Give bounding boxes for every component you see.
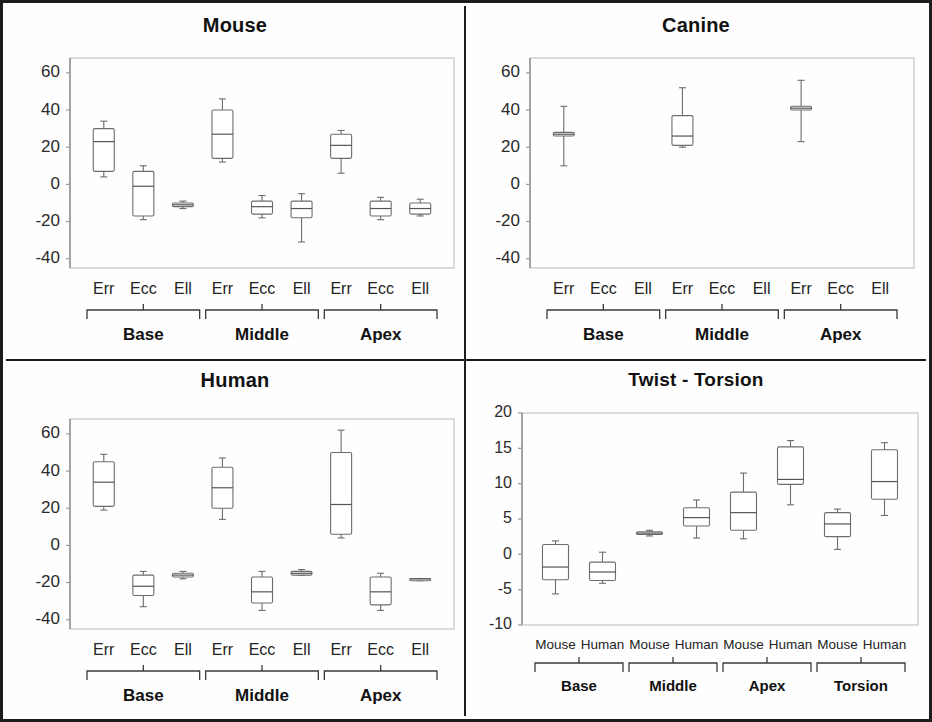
box-plot <box>684 500 710 538</box>
group-label: Apex <box>749 677 786 694</box>
y-tick-label: 20 <box>41 498 60 517</box>
panel-human: Human 6040200-20-40ErrEccEllErrEccEllErr… <box>6 361 466 716</box>
x-category-label: Mouse <box>535 637 576 652</box>
x-category-label: Mouse <box>723 637 764 652</box>
y-tick-label: -20 <box>35 211 60 230</box>
x-category-label: Ell <box>411 280 429 297</box>
y-tick-label: -10 <box>489 615 512 632</box>
x-category-label: Human <box>769 637 813 652</box>
group-label: Base <box>583 325 624 344</box>
group-label: Base <box>561 677 597 694</box>
boxplot-svg-mouse: 6040200-20-40ErrEccEllErrEccEllErrEccEll… <box>6 6 466 361</box>
box-plot <box>410 199 431 216</box>
box-plot <box>93 121 114 177</box>
plot-area-mouse: 6040200-20-40ErrEccEllErrEccEllErrEccEll… <box>6 6 464 359</box>
group-bracket <box>324 304 437 319</box>
box-plot <box>543 541 569 594</box>
y-tick-label: 60 <box>501 62 520 81</box>
group-bracket <box>723 657 811 672</box>
group-bracket <box>629 657 717 672</box>
x-category-label: Ell <box>293 641 311 658</box>
box-plot <box>553 106 574 165</box>
group-bracket <box>547 304 660 319</box>
group-label: Middle <box>649 677 697 694</box>
y-tick-label: 60 <box>41 62 60 81</box>
box-plot <box>672 88 693 147</box>
group-bracket <box>535 657 623 672</box>
box-plot <box>172 571 193 578</box>
box-plot <box>370 197 391 219</box>
box-plot <box>172 201 193 208</box>
x-category-label: Err <box>330 641 352 658</box>
group-label: Base <box>123 325 164 344</box>
y-tick-label: 0 <box>51 535 60 554</box>
x-category-label: Ell <box>753 280 771 297</box>
group-bracket <box>324 665 437 680</box>
x-category-label: Err <box>212 641 234 658</box>
group-label: Apex <box>360 686 402 705</box>
box-plot <box>212 458 233 519</box>
x-category-label: Ell <box>871 280 889 297</box>
x-category-label: Err <box>790 280 812 297</box>
box-plot <box>212 99 233 162</box>
box-plot <box>133 166 154 220</box>
panel-grid: Mouse 6040200-20-40ErrEccEllErrEccEllErr… <box>6 6 926 716</box>
y-tick-label: 60 <box>41 423 60 442</box>
group-bracket <box>206 304 319 319</box>
box-plot <box>778 441 804 505</box>
y-tick-label: -20 <box>495 211 520 230</box>
y-tick-label: -20 <box>35 572 60 591</box>
y-tick-label: 40 <box>41 100 60 119</box>
group-label: Middle <box>695 325 749 344</box>
x-category-label: Ecc <box>709 280 736 297</box>
box-plot <box>252 196 273 218</box>
group-bracket <box>784 304 897 319</box>
group-label: Middle <box>235 325 289 344</box>
group-bracket <box>817 657 905 672</box>
group-label: Apex <box>820 325 862 344</box>
x-category-label: Ecc <box>249 280 276 297</box>
box-plot <box>731 473 757 539</box>
y-tick-label: 20 <box>41 137 60 156</box>
x-category-label: Ecc <box>249 641 276 658</box>
group-bracket <box>666 304 779 319</box>
y-tick-label: 10 <box>494 474 512 491</box>
panel-mouse: Mouse 6040200-20-40ErrEccEllErrEccEllErr… <box>6 6 466 361</box>
x-category-label: Ell <box>174 641 192 658</box>
box-plot <box>93 454 114 510</box>
y-tick-label: 0 <box>51 174 60 193</box>
box-plot <box>410 579 431 581</box>
figure-container: Mouse 6040200-20-40ErrEccEllErrEccEllErr… <box>0 0 932 722</box>
box-plot <box>291 194 312 242</box>
y-tick-label: 40 <box>41 461 60 480</box>
box-plot <box>133 571 154 606</box>
x-category-label: Err <box>553 280 575 297</box>
plot-area-twist-torsion: 20151050-5-10MouseHumanMouseHumanMouseHu… <box>466 361 926 716</box>
x-category-label: Err <box>93 280 115 297</box>
x-category-label: Ell <box>411 641 429 658</box>
box-plot <box>872 443 898 516</box>
x-category-label: Ell <box>174 280 192 297</box>
x-category-label: Ecc <box>827 280 854 297</box>
y-tick-label: 15 <box>494 439 512 456</box>
y-tick-label: -40 <box>35 248 60 267</box>
y-tick-label: -5 <box>498 580 512 597</box>
box-plot <box>291 570 312 576</box>
x-category-label: Ecc <box>130 641 157 658</box>
x-category-label: Mouse <box>629 637 670 652</box>
x-category-label: Err <box>672 280 694 297</box>
group-bracket <box>206 665 319 680</box>
group-label: Torsion <box>834 677 888 694</box>
box-plot <box>637 530 663 536</box>
y-tick-label: -40 <box>495 248 520 267</box>
box-plot <box>791 80 812 141</box>
x-category-label: Ecc <box>130 280 157 297</box>
boxplot-svg-twist-torsion: 20151050-5-10MouseHumanMouseHumanMouseHu… <box>466 361 926 716</box>
panel-twist-torsion: Twist - Torsion 20151050-5-10MouseHumanM… <box>466 361 926 716</box>
plot-area-human: 6040200-20-40ErrEccEllErrEccEllErrEccEll… <box>6 361 464 716</box>
boxplot-svg-canine: 6040200-20-40ErrEccEllErrEccEllErrEccEll… <box>466 6 926 361</box>
boxplot-svg-human: 6040200-20-40ErrEccEllErrEccEllErrEccEll… <box>6 361 466 716</box>
group-bracket <box>87 304 200 319</box>
box-plot <box>252 571 273 610</box>
x-category-label: Human <box>863 637 907 652</box>
